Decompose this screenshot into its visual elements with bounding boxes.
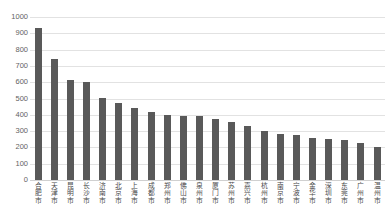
- bar[interactable]: [180, 116, 187, 180]
- x-label-slot: 杭州市: [256, 182, 272, 216]
- bar[interactable]: [341, 140, 348, 180]
- bar-slot: [288, 17, 304, 180]
- x-label-slot: 泉州市: [191, 182, 207, 216]
- bar[interactable]: [99, 98, 106, 180]
- y-axis-tick-label: 500: [2, 95, 28, 103]
- bar[interactable]: [309, 138, 316, 180]
- y-axis-tick-label: 600: [2, 78, 28, 86]
- y-axis-tick-label: 1000: [2, 13, 28, 21]
- x-label-slot: 东莞市: [337, 182, 353, 216]
- bar-slot: [175, 17, 191, 180]
- x-label-slot: 佛山市: [175, 182, 191, 216]
- x-label-slot: 成都市: [143, 182, 159, 216]
- bar[interactable]: [261, 131, 268, 180]
- bar-slot: [304, 17, 320, 180]
- bar-slot: [95, 17, 111, 180]
- x-axis-tick-label: 郑州市: [163, 182, 171, 216]
- bar-slot: [321, 17, 337, 180]
- bar[interactable]: [67, 80, 74, 180]
- bar-slot: [143, 17, 159, 180]
- x-axis-tick-label: 东莞市: [341, 182, 349, 216]
- x-axis-tick-label: 厦门市: [212, 182, 220, 216]
- x-axis-tick-label: 北京市: [115, 182, 123, 216]
- x-axis-tick-label: 成都市: [147, 182, 155, 216]
- x-axis-tick-label: 嘉兴市: [244, 182, 252, 216]
- x-label-slot: 深圳市: [321, 182, 337, 216]
- bar[interactable]: [244, 126, 251, 180]
- x-label-slot: 广州市: [353, 182, 369, 216]
- bar[interactable]: [374, 147, 381, 180]
- x-label-slot: 合肥市: [30, 182, 46, 216]
- x-axis-tick-label: 杭州市: [260, 182, 268, 216]
- bar-slot: [208, 17, 224, 180]
- bar[interactable]: [83, 82, 90, 180]
- bar-slot: [30, 17, 46, 180]
- bar-slot: [369, 17, 385, 180]
- bar-slot: [159, 17, 175, 180]
- x-axis-tick-label: 泉州市: [195, 182, 203, 216]
- bar-slot: [127, 17, 143, 180]
- x-label-slot: 上海市: [127, 182, 143, 216]
- bar-slot: [111, 17, 127, 180]
- bar[interactable]: [212, 119, 219, 180]
- x-label-slot: 温州市: [369, 182, 385, 216]
- bar[interactable]: [115, 103, 122, 180]
- x-label-slot: 金华市: [304, 182, 320, 216]
- gridline: [30, 180, 385, 181]
- y-axis-tick-label: 200: [2, 143, 28, 151]
- bar[interactable]: [164, 115, 171, 180]
- x-axis-tick-label: 济南市: [99, 182, 107, 216]
- bar-chart: 10009008007006005004003002001000 合肥市天津市昆…: [0, 0, 392, 218]
- x-label-slot: 长沙市: [78, 182, 94, 216]
- y-axis-tick-label: 0: [2, 176, 28, 184]
- bar[interactable]: [35, 28, 42, 180]
- x-axis-tick-label: 合肥市: [34, 182, 42, 216]
- y-axis-tick-label: 100: [2, 160, 28, 168]
- y-axis-tick-label: 300: [2, 127, 28, 135]
- bar-slot: [191, 17, 207, 180]
- bar-slot: [353, 17, 369, 180]
- bar[interactable]: [325, 139, 332, 180]
- bar-series: [30, 17, 385, 180]
- x-label-slot: 天津市: [46, 182, 62, 216]
- bar[interactable]: [196, 116, 203, 180]
- y-axis-tick-label: 700: [2, 62, 28, 70]
- bar-slot: [240, 17, 256, 180]
- bar[interactable]: [131, 108, 138, 180]
- bar[interactable]: [51, 59, 58, 180]
- x-axis-tick-label: 佛山市: [179, 182, 187, 216]
- x-label-slot: 昆明市: [62, 182, 78, 216]
- x-axis-tick-label: 南京市: [276, 182, 284, 216]
- x-label-slot: 苏州市: [224, 182, 240, 216]
- x-axis-tick-label: 上海市: [131, 182, 139, 216]
- y-axis-tick-label: 900: [2, 29, 28, 37]
- x-axis-tick-label: 宁波市: [292, 182, 300, 216]
- bar[interactable]: [357, 143, 364, 180]
- bar[interactable]: [277, 134, 284, 180]
- bar[interactable]: [228, 122, 235, 180]
- x-axis: 合肥市天津市昆明市长沙市济南市北京市上海市成都市郑州市佛山市泉州市厦门市苏州市嘉…: [30, 182, 385, 216]
- x-axis-tick-label: 深圳市: [325, 182, 333, 216]
- bar-slot: [62, 17, 78, 180]
- x-axis-tick-label: 广州市: [357, 182, 365, 216]
- x-label-slot: 郑州市: [159, 182, 175, 216]
- x-axis-tick-label: 天津市: [50, 182, 58, 216]
- x-label-slot: 北京市: [111, 182, 127, 216]
- x-label-slot: 宁波市: [288, 182, 304, 216]
- x-label-slot: 嘉兴市: [240, 182, 256, 216]
- bar-slot: [337, 17, 353, 180]
- x-label-slot: 厦门市: [208, 182, 224, 216]
- bar-slot: [46, 17, 62, 180]
- y-axis-tick-label: 800: [2, 46, 28, 54]
- x-label-slot: 济南市: [95, 182, 111, 216]
- bar[interactable]: [293, 135, 300, 180]
- plot-area: [30, 17, 385, 180]
- bar[interactable]: [148, 112, 155, 180]
- bar-slot: [224, 17, 240, 180]
- x-axis-tick-label: 长沙市: [82, 182, 90, 216]
- bar-slot: [272, 17, 288, 180]
- x-axis-tick-label: 温州市: [373, 182, 381, 216]
- x-axis-tick-label: 苏州市: [228, 182, 236, 216]
- y-axis-tick-label: 400: [2, 111, 28, 119]
- bar-slot: [256, 17, 272, 180]
